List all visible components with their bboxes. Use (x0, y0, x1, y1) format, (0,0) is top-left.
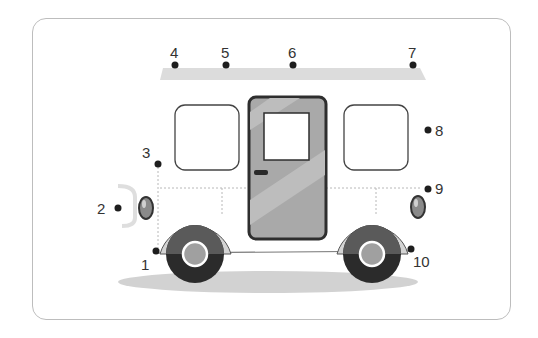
dot-2[interactable] (115, 205, 122, 212)
dot-8[interactable] (425, 127, 432, 134)
door (249, 97, 326, 239)
dot-label-5: 5 (221, 44, 229, 61)
bus-diagram: 1 2 3 4 5 6 7 8 9 10 (0, 0, 538, 338)
dot-7[interactable] (410, 62, 417, 69)
dot-label-2: 2 (97, 200, 105, 217)
dot-6[interactable] (290, 62, 297, 69)
dot-label-7: 7 (408, 44, 416, 61)
dot-1[interactable] (153, 248, 160, 255)
dot-label-1: 1 (141, 256, 149, 273)
dot-5[interactable] (223, 62, 230, 69)
dot-label-9: 9 (435, 180, 443, 197)
window-right (344, 105, 408, 170)
headlight-right (411, 196, 425, 218)
dot-label-6: 6 (288, 44, 296, 61)
headlight-left (139, 197, 153, 219)
dot-label-3: 3 (142, 144, 150, 161)
dot-4[interactable] (172, 62, 179, 69)
dot-label-8: 8 (435, 122, 443, 139)
dot-3[interactable] (155, 161, 162, 168)
window-left (175, 105, 239, 170)
dot-label-10: 10 (413, 253, 430, 270)
dot-label-4: 4 (170, 44, 178, 61)
door-handle (254, 170, 268, 175)
roof-dotted-band (160, 68, 426, 80)
door-window (264, 113, 309, 160)
dot-9[interactable] (425, 186, 432, 193)
dot-10[interactable] (408, 246, 415, 253)
